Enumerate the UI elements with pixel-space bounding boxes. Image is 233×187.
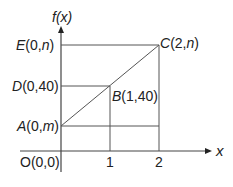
x-tick-1: 1 — [106, 155, 114, 169]
point-a-coords: (0, — [26, 118, 42, 134]
point-a-name: A — [17, 118, 26, 134]
point-c-coords: (2, — [170, 35, 186, 51]
point-e-name: E — [16, 37, 25, 53]
point-b-name: B — [112, 88, 121, 104]
point-b-coords: (1,40) — [121, 88, 158, 104]
point-e-coords: (0, — [25, 37, 41, 53]
point-d-coords: (0,40) — [22, 78, 59, 94]
x-tick-2: 2 — [155, 155, 163, 169]
point-a-var: m — [43, 118, 55, 134]
point-c-name: C — [160, 35, 170, 51]
point-b-label: B(1,40) — [112, 89, 158, 103]
origin-label: O(0,0) — [20, 155, 60, 169]
point-a-close: ) — [54, 118, 59, 134]
point-d-name: D — [12, 78, 22, 94]
point-e-close: ) — [49, 37, 54, 53]
point-d-label: D(0,40) — [12, 79, 59, 93]
x-axis-arrow-icon — [205, 148, 212, 154]
point-c-close: ) — [194, 35, 199, 51]
point-a-label: A(0,m) — [17, 119, 59, 133]
x-axis-label: x — [216, 143, 224, 158]
point-e-label: E(0,n) — [16, 38, 54, 52]
y-axis-arrow-icon — [58, 26, 64, 33]
point-c-label: C(2,n) — [160, 36, 199, 50]
y-axis-label: f(x) — [52, 10, 72, 24]
